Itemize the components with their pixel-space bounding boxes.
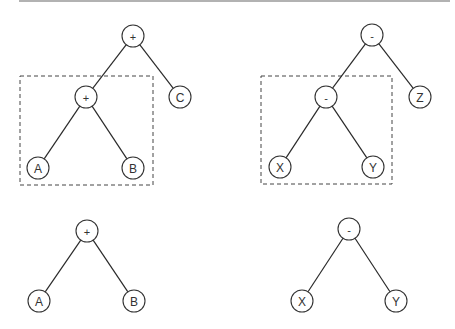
operand-node: Y [385,290,407,312]
operand-node: Z [409,86,431,108]
tree-edge [308,238,343,292]
node-label: B [129,162,137,176]
node-label: Z [416,91,423,105]
tree-edge [355,238,390,292]
node-label: Y [392,295,400,309]
tree-edge [332,106,367,158]
node-label: X [276,161,284,175]
tree-edge [140,45,174,89]
tree-edge [44,106,80,159]
node-label: + [84,226,90,238]
node-label: - [324,92,328,104]
tree-edge [45,240,81,292]
tree-plus-full: ++CAB [20,25,191,185]
operator-node: + [75,86,97,108]
tree-minus-full: --ZXY [261,24,431,184]
operator-node: - [338,218,360,240]
node-label: B [130,295,138,309]
expression-tree-diagram: ++CAB--ZXY+AB-XY [0,0,455,329]
tree-edge [93,45,127,89]
operand-node: B [122,157,144,179]
node-label: - [347,224,351,236]
trees-layer: ++CAB--ZXY+AB-XY [20,24,431,312]
tree-edge [333,44,366,88]
operand-node: X [269,156,291,178]
node-label: C [176,91,185,105]
tree-edge [92,106,127,159]
operand-node: A [28,290,50,312]
operand-node: C [169,86,191,108]
node-label: X [298,295,306,309]
tree-edge [93,240,128,292]
operator-node: - [361,24,383,46]
tree-minus-sub: -XY [291,218,407,312]
operand-node: X [291,290,313,312]
node-label: + [130,31,136,43]
tree-edge [286,106,320,158]
node-label: + [83,92,89,104]
tree-edge [379,44,414,89]
operand-node: B [123,290,145,312]
operator-node: + [76,220,98,242]
node-label: - [370,30,374,42]
operand-node: Y [362,156,384,178]
node-label: A [34,162,42,176]
node-label: Y [369,161,377,175]
node-label: A [35,295,43,309]
tree-plus-sub: +AB [28,220,145,312]
operand-node: A [27,157,49,179]
operator-node: + [122,25,144,47]
operator-node: - [315,86,337,108]
